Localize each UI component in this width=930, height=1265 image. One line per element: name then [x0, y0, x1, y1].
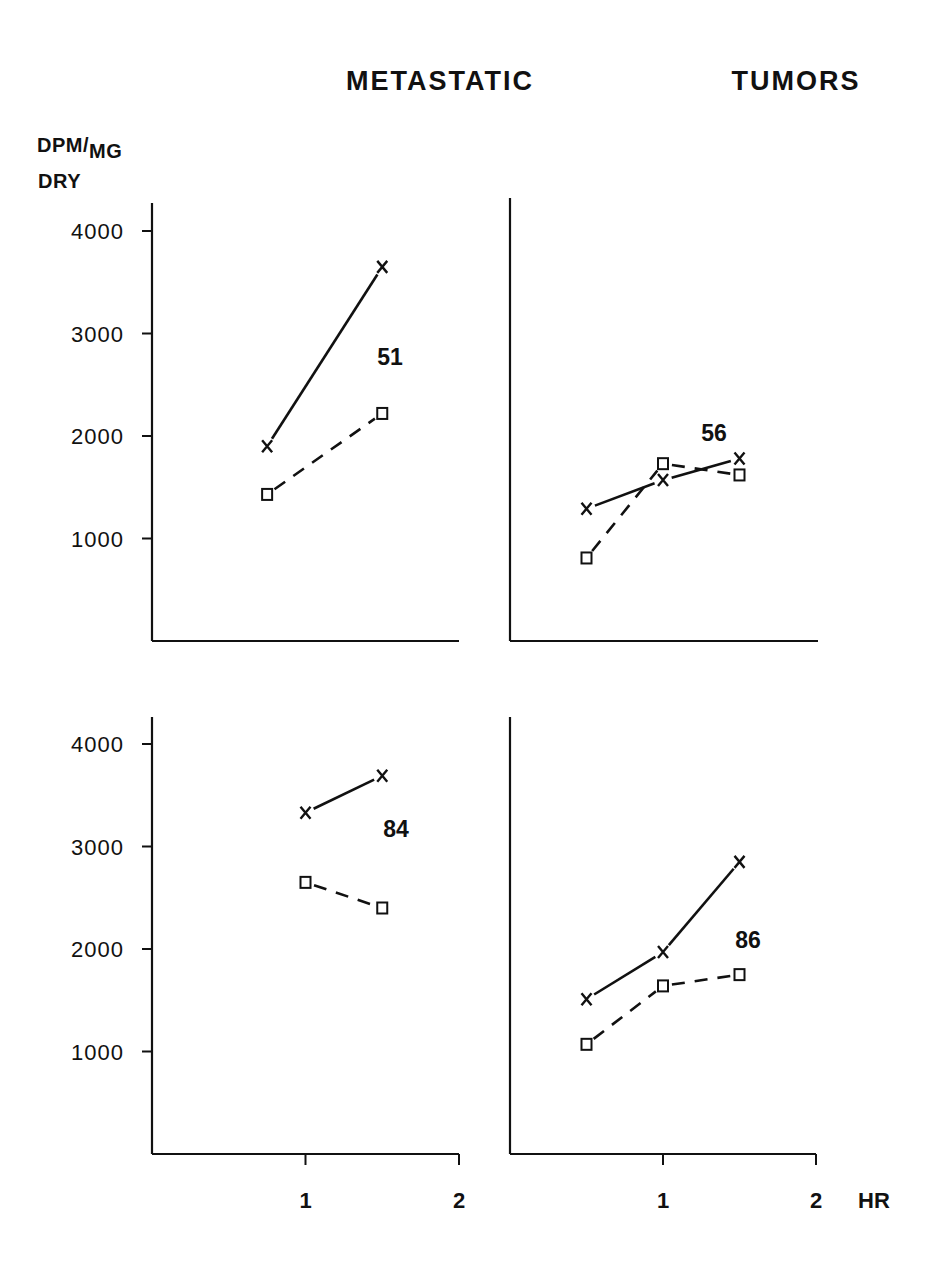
x-marker-icon: [658, 946, 668, 958]
x-tick-label: 1: [299, 1188, 311, 1213]
x-marker-icon: [735, 856, 745, 868]
y-tick-label: 2000: [71, 937, 124, 962]
solid-series-line: [314, 780, 375, 809]
square-marker-icon: [262, 489, 272, 500]
square-marker-icon: [301, 877, 311, 888]
x-tick-label: 2: [810, 1188, 822, 1213]
y-tick-label: 1000: [71, 1040, 124, 1065]
x-marker-icon: [377, 261, 387, 273]
panel-annotation: 51: [377, 344, 403, 370]
x-marker-icon: [582, 993, 592, 1005]
x-marker-icon: [582, 503, 592, 515]
y-tick-label: 4000: [71, 732, 124, 757]
square-marker-icon: [582, 1039, 592, 1050]
solid-series-line: [669, 869, 734, 945]
square-marker-icon: [735, 969, 745, 980]
panel-annotation: 56: [701, 420, 727, 446]
square-marker-icon: [377, 903, 387, 914]
x-tick-label: 1: [657, 1188, 669, 1213]
x-marker-icon: [735, 453, 745, 465]
y-tick-label: 3000: [71, 322, 124, 347]
x-marker-icon: [377, 770, 387, 782]
dashed-series-line: [672, 465, 731, 474]
dashed-series-line: [672, 976, 731, 985]
y-tick-label: 1000: [71, 527, 124, 552]
x-marker-icon: [658, 474, 668, 486]
x-marker-icon: [262, 440, 272, 452]
chart-canvas: 1000200030004000515610002000300040001284…: [0, 0, 930, 1265]
dashed-series-line: [314, 885, 374, 905]
dashed-series-line: [592, 471, 657, 551]
y-tick-label: 4000: [71, 219, 124, 244]
dashed-series-line: [274, 419, 374, 490]
square-marker-icon: [735, 469, 745, 480]
y-tick-label: 3000: [71, 835, 124, 860]
square-marker-icon: [658, 980, 668, 991]
panel-annotation: 86: [735, 927, 761, 953]
panel-annotation: 84: [383, 816, 409, 842]
y-tick-label: 2000: [71, 424, 124, 449]
solid-series-line: [594, 957, 655, 995]
square-marker-icon: [658, 458, 668, 469]
dashed-series-line: [594, 991, 656, 1038]
x-tick-label: 2: [453, 1188, 465, 1213]
square-marker-icon: [377, 408, 387, 419]
square-marker-icon: [582, 552, 592, 563]
solid-series-line: [595, 483, 655, 505]
x-axis-unit-label: HR: [858, 1188, 890, 1213]
x-marker-icon: [301, 807, 311, 819]
solid-series-line: [272, 274, 377, 438]
